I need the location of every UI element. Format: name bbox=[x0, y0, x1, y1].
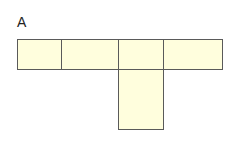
top-row-cell-3 bbox=[118, 39, 164, 70]
top-row-cell-2 bbox=[61, 39, 119, 70]
top-row-cell-1 bbox=[17, 39, 62, 70]
figure-label: A bbox=[17, 14, 26, 30]
stem-cell bbox=[118, 69, 164, 130]
top-row-cell-4 bbox=[163, 39, 223, 70]
